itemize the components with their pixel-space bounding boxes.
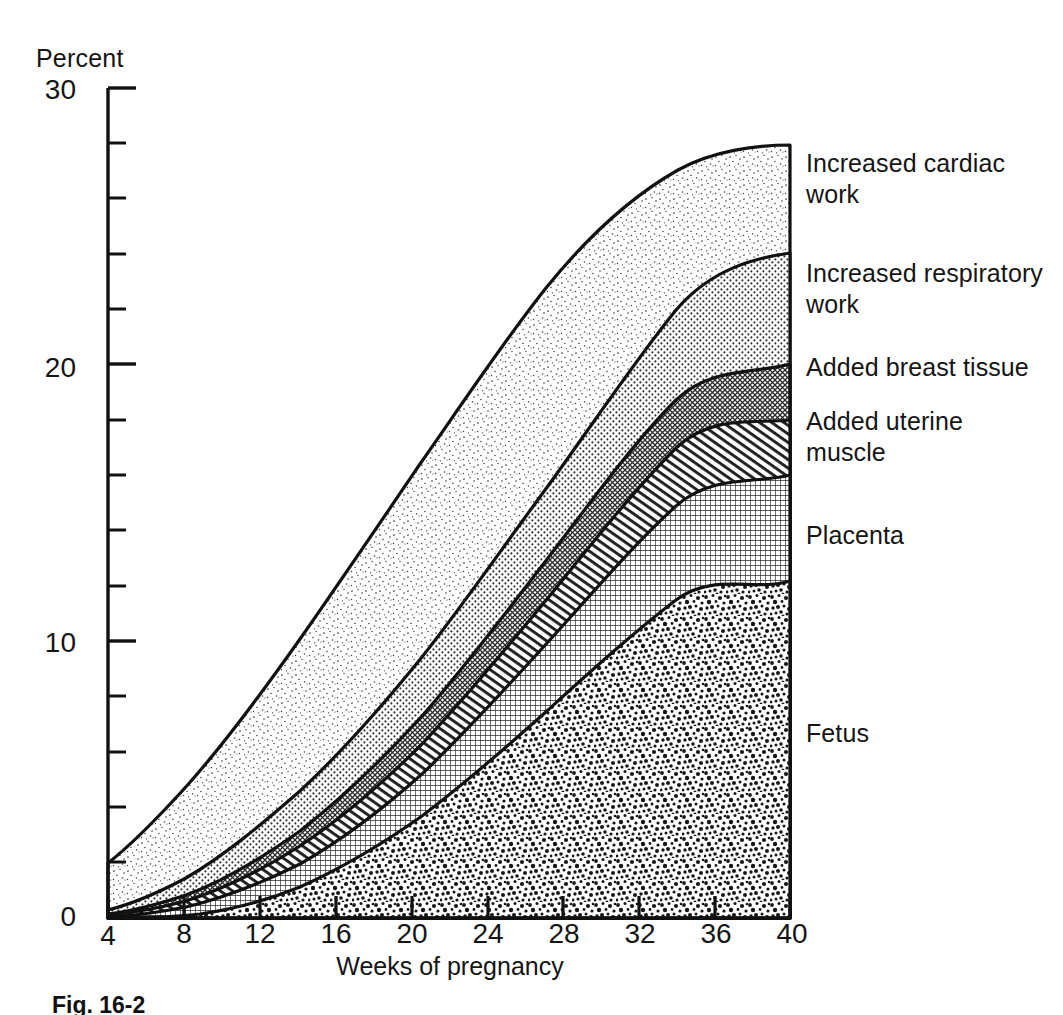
figure-root: Percent 30 20 10 0 4 8 12 16 20 24 28 32…	[0, 0, 1063, 1015]
y-axis-minor-ticks	[108, 143, 126, 862]
y-axis-major-ticks	[108, 88, 136, 918]
stacked-area-plot	[0, 0, 1063, 1015]
